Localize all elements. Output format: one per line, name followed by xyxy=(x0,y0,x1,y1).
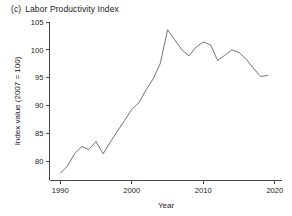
y-tick-label: 105 xyxy=(31,18,44,27)
y-tick-label: 80 xyxy=(35,157,43,166)
x-tick-group: 1990200020102020 xyxy=(52,181,284,195)
x-tick-label: 2000 xyxy=(123,186,140,195)
y-tick-label: 100 xyxy=(31,46,44,55)
y-tick-label: 95 xyxy=(35,73,43,82)
y-tick-label: 90 xyxy=(35,101,43,110)
y-axis-title: Index value (2007 = 100) xyxy=(13,56,22,145)
figure-panel: (c)Labor Productivity Index 808590951001… xyxy=(0,0,292,216)
x-tick-label: 2020 xyxy=(266,186,283,195)
data-series-line xyxy=(60,30,267,173)
x-tick-label: 1990 xyxy=(52,186,69,195)
x-axis-title: Year xyxy=(158,201,175,210)
y-tick-group: 80859095100105 xyxy=(31,18,50,166)
line-chart: 80859095100105 1990200020102020 Year Ind… xyxy=(0,0,292,216)
x-tick-label: 2010 xyxy=(195,186,212,195)
y-tick-label: 85 xyxy=(35,129,43,138)
